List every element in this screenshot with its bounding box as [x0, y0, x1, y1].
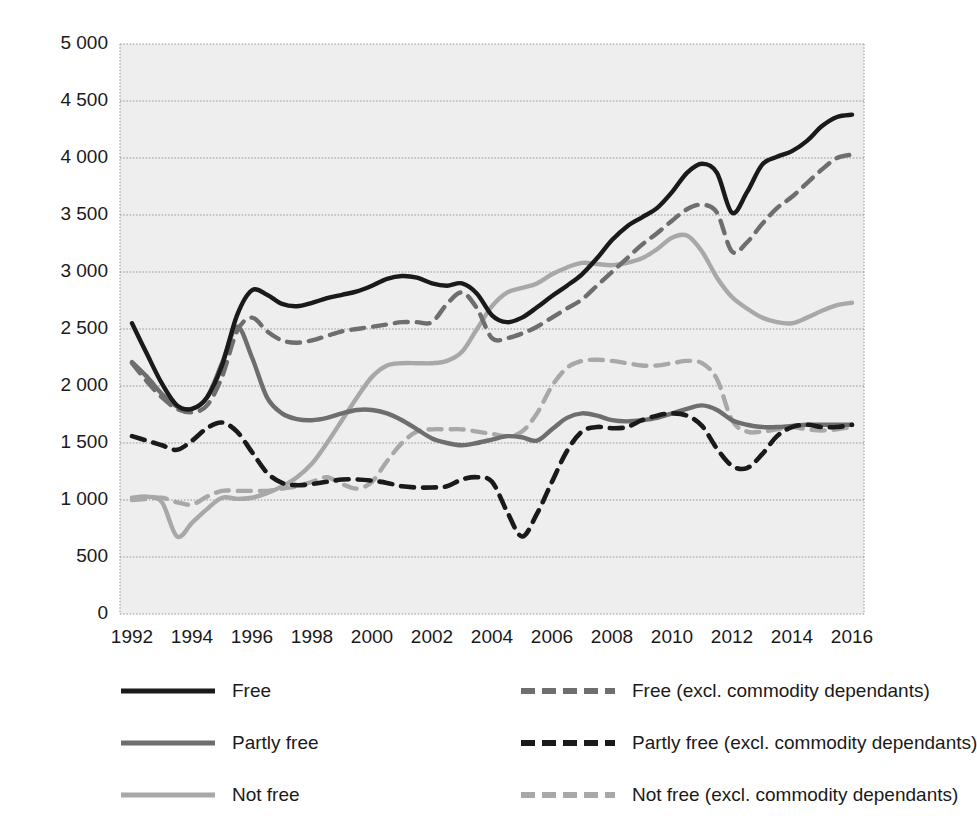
x-tick-label: 2002 — [397, 626, 467, 648]
legend-label: Not free — [232, 784, 300, 806]
y-tick-label: 3 000 — [0, 260, 108, 282]
x-tick-label: 1992 — [97, 626, 167, 648]
y-tick-label: 4 500 — [0, 89, 108, 111]
x-tick-label: 2016 — [817, 626, 887, 648]
y-tick-label: 5 000 — [0, 32, 108, 54]
legend-label: Free — [232, 680, 271, 702]
series-line — [132, 327, 852, 446]
legend-item[interactable]: Partly free — [120, 728, 319, 758]
x-tick-label: 2014 — [757, 626, 827, 648]
y-tick-label: 2 500 — [0, 317, 108, 339]
legend-swatch-dashed — [520, 680, 616, 702]
series-line — [132, 115, 852, 410]
legend-item[interactable]: Not free — [120, 780, 300, 810]
legend-item[interactable]: Not free (excl. commodity dependants) — [520, 780, 958, 810]
x-tick-label: 2000 — [337, 626, 407, 648]
y-tick-label: 3 500 — [0, 203, 108, 225]
legend-swatch-solid — [120, 680, 216, 702]
series-line — [132, 413, 852, 536]
y-tick-label: 0 — [0, 602, 108, 624]
legend-label: Not free (excl. commodity dependants) — [632, 784, 958, 806]
legend-item[interactable]: Free (excl. commodity dependants) — [520, 676, 930, 706]
x-tick-label: 1998 — [277, 626, 347, 648]
x-tick-label: 2006 — [517, 626, 587, 648]
x-tick-label: 2004 — [457, 626, 527, 648]
x-tick-label: 1996 — [217, 626, 287, 648]
legend-label: Partly free (excl. commodity dependants) — [632, 732, 977, 754]
legend-swatch-solid — [120, 784, 216, 806]
legend-swatch-solid — [120, 732, 216, 754]
x-tick-label: 2010 — [637, 626, 707, 648]
y-tick-label: 4 000 — [0, 146, 108, 168]
legend-swatch-dashed — [520, 784, 616, 806]
x-tick-label: 1994 — [157, 626, 227, 648]
x-tick-label: 2008 — [577, 626, 647, 648]
plot-area — [120, 44, 864, 614]
y-tick-label: 2 000 — [0, 374, 108, 396]
y-axis-title: CONSTANT 2010 (US$) — [4, 0, 44, 84]
legend-swatch-dashed — [520, 732, 616, 754]
legend-item[interactable]: Partly free (excl. commodity dependants) — [520, 728, 977, 758]
x-tick-label: 2012 — [697, 626, 767, 648]
y-tick-label: 500 — [0, 545, 108, 567]
legend-label: Free (excl. commodity dependants) — [632, 680, 930, 702]
legend-item[interactable]: Free — [120, 676, 271, 706]
y-tick-label: 1 000 — [0, 488, 108, 510]
legend-label: Partly free — [232, 732, 319, 754]
chart-legend: FreeFree (excl. commodity dependants)Par… — [120, 676, 890, 806]
series-lines — [120, 44, 864, 614]
y-tick-label: 1 500 — [0, 431, 108, 453]
